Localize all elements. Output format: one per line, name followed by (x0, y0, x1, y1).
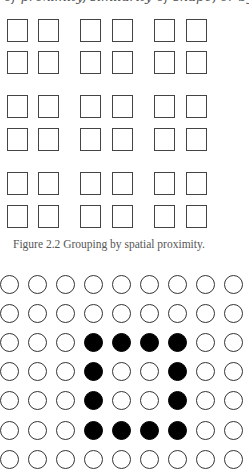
open-circle (140, 450, 159, 469)
open-circle (84, 450, 103, 469)
open-circle (168, 304, 187, 323)
open-circle (224, 450, 243, 469)
square-shape (7, 172, 28, 195)
open-circle (196, 333, 215, 352)
open-circle (0, 450, 19, 469)
square-shape (38, 205, 59, 228)
filled-circle (140, 333, 159, 352)
square-shape (112, 19, 133, 42)
square-shape (112, 95, 133, 118)
open-circle (28, 304, 47, 323)
filled-circle (168, 421, 187, 440)
filled-circle (84, 391, 103, 410)
open-circle (224, 333, 243, 352)
cropped-body-text: of proximity, similarity of shape, or by… (4, 0, 249, 4)
filled-circle (168, 391, 187, 410)
square-shape (7, 205, 28, 228)
open-circle (56, 304, 75, 323)
open-circle (224, 275, 243, 294)
square-shape (7, 51, 28, 74)
open-circle (56, 333, 75, 352)
square-shape (112, 51, 133, 74)
square-shape (112, 172, 133, 195)
square-shape (112, 128, 133, 151)
square-shape (38, 95, 59, 118)
square-shape (186, 95, 207, 118)
open-circle (196, 421, 215, 440)
open-circle (196, 450, 215, 469)
open-circle (112, 362, 131, 381)
open-circle (56, 421, 75, 440)
open-circle (140, 391, 159, 410)
open-circle (28, 421, 47, 440)
square-shape (154, 19, 175, 42)
square-shape (80, 172, 101, 195)
open-circle (0, 333, 19, 352)
square-shape (80, 128, 101, 151)
square-shape (7, 128, 28, 151)
square-shape (154, 128, 175, 151)
filled-circle (84, 333, 103, 352)
square-shape (80, 95, 101, 118)
open-circle (168, 450, 187, 469)
square-shape (80, 19, 101, 42)
open-circle (28, 275, 47, 294)
open-circle (0, 304, 19, 323)
open-circle (84, 304, 103, 323)
open-circle (196, 304, 215, 323)
open-circle (196, 275, 215, 294)
square-shape (186, 172, 207, 195)
open-circle (56, 275, 75, 294)
filled-circle (140, 421, 159, 440)
square-shape (38, 51, 59, 74)
open-circle (0, 421, 19, 440)
open-circle (28, 333, 47, 352)
square-shape (154, 95, 175, 118)
figure-caption: Figure 2.2 Grouping by spatial proximity… (13, 238, 205, 250)
open-circle (196, 362, 215, 381)
filled-circle (112, 333, 131, 352)
open-circle (140, 304, 159, 323)
square-shape (186, 205, 207, 228)
filled-circle (84, 362, 103, 381)
square-shape (112, 205, 133, 228)
open-circle (0, 391, 19, 410)
open-circle (28, 362, 47, 381)
filled-circle (112, 421, 131, 440)
open-circle (112, 304, 131, 323)
square-shape (80, 205, 101, 228)
filled-circle (168, 333, 187, 352)
open-circle (224, 362, 243, 381)
square-shape (7, 95, 28, 118)
open-circle (140, 362, 159, 381)
filled-circle (168, 362, 187, 381)
square-shape (154, 172, 175, 195)
open-circle (224, 304, 243, 323)
square-shape (186, 51, 207, 74)
open-circle (56, 450, 75, 469)
open-circle (56, 391, 75, 410)
square-shape (186, 19, 207, 42)
open-circle (56, 362, 75, 381)
open-circle (28, 391, 47, 410)
open-circle (112, 391, 131, 410)
square-shape (80, 51, 101, 74)
open-circle (112, 450, 131, 469)
open-circle (168, 275, 187, 294)
filled-circle (84, 421, 103, 440)
open-circle (112, 275, 131, 294)
open-circle (0, 275, 19, 294)
square-shape (7, 19, 28, 42)
open-circle (140, 275, 159, 294)
square-shape (38, 172, 59, 195)
square-shape (154, 51, 175, 74)
open-circle (0, 362, 19, 381)
open-circle (84, 275, 103, 294)
open-circle (196, 391, 215, 410)
open-circle (224, 391, 243, 410)
open-circle (224, 421, 243, 440)
square-shape (154, 205, 175, 228)
square-shape (38, 19, 59, 42)
square-shape (186, 128, 207, 151)
open-circle (28, 450, 47, 469)
